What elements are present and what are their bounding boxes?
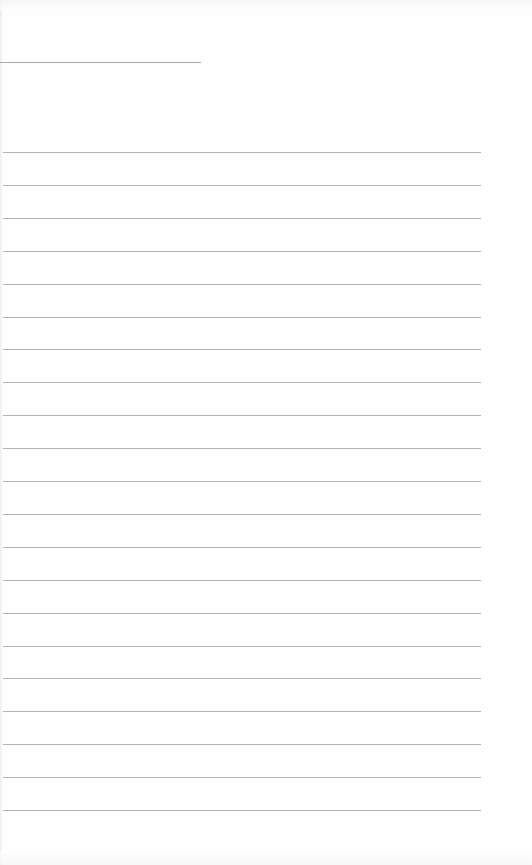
ruled-line [3, 547, 481, 548]
ruled-line [3, 646, 481, 647]
ruled-line [3, 678, 481, 679]
ruled-line [3, 152, 481, 153]
header-name-line [0, 62, 201, 63]
ruled-line [3, 514, 481, 515]
page-edge-shadow [0, 0, 3, 865]
ruled-line [3, 580, 481, 581]
ruled-line [3, 185, 481, 186]
ruled-line [3, 317, 481, 318]
ruled-line [3, 711, 481, 712]
show-through-top [0, 0, 532, 10]
ruled-line [3, 810, 481, 811]
ruled-line [3, 415, 481, 416]
ruled-line [3, 744, 481, 745]
ruled-line [3, 777, 481, 778]
notebook-page [0, 0, 532, 865]
show-through-bottom [0, 851, 532, 865]
ruled-line [3, 251, 481, 252]
ruled-line [3, 481, 481, 482]
ruled-line [3, 349, 481, 350]
ruled-line [3, 448, 481, 449]
ruled-line [3, 218, 481, 219]
ruled-line [3, 284, 481, 285]
ruled-line [3, 613, 481, 614]
ruled-line [3, 382, 481, 383]
